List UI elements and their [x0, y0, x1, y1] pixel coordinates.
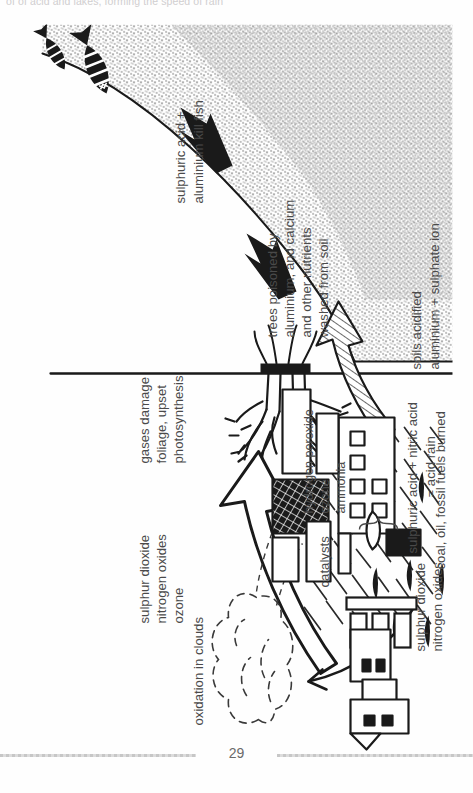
label-trees-line1: trees poisoned by — [265, 232, 280, 337]
book-page: of of acid and lakes, forming the speed … — [0, 0, 473, 793]
label-soil-line1: soils acidified — [409, 291, 424, 369]
label-acids-line1: sulphuric acid + nitric acid — [405, 402, 420, 553]
label-catalyst-3: ammonia — [334, 461, 348, 513]
label-trees-line4: washed from soil — [316, 238, 331, 338]
label-foliage-line3: photosynthesis — [171, 375, 186, 463]
label-emission-line1: sulphur dioxide — [413, 562, 428, 651]
acid-rain-diagram: sulphur dioxide nitrogen oxides coal, oi… — [21, 24, 453, 769]
label-oxidation: oxidation in clouds — [191, 616, 206, 725]
figure-artwork: sulphur dioxide nitrogen oxides coal, oi… — [0, 0, 473, 793]
page-footer: 29 — [0, 745, 473, 765]
label-trees-line3: and other nutrients — [299, 227, 314, 337]
label-trees-line2: aluminium, and calcium — [282, 199, 297, 337]
label-transported-line1: sulphur dioxide — [137, 534, 152, 623]
label-catalyst-1: hydrogen peroxide — [302, 409, 316, 513]
label-catalysts-bracket: catalysts — [317, 535, 332, 587]
footer-rule-right — [277, 754, 473, 757]
label-foliage-line1: gases damage — [137, 376, 152, 463]
page-number: 29 — [0, 745, 473, 761]
label-foliage: gases damage foliage, upset photosynthes… — [137, 375, 186, 463]
label-catalyst-2: ozone — [318, 479, 332, 513]
svg-text:oxidation in clouds: oxidation in clouds — [191, 616, 206, 725]
label-fish-line1: sulphuric acid + — [173, 111, 188, 203]
label-transported-line3: ozone — [171, 587, 186, 623]
label-acids-line2: = acid rain — [423, 436, 438, 497]
label-foliage-line2: foliage, upset — [154, 384, 169, 463]
label-transported-line2: nitrogen oxides — [154, 533, 169, 623]
label-emission-line2: nitrogen oxides — [430, 561, 445, 651]
label-soil-line2: aluminium + sulphate ion — [427, 223, 442, 369]
label-fish-line2: aluminium kill fish — [191, 100, 206, 203]
